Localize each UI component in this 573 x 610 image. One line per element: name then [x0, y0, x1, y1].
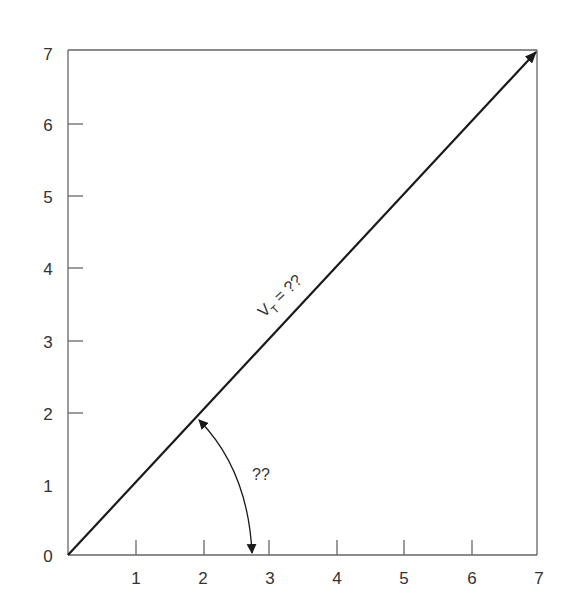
x-label-5: 5: [399, 569, 408, 588]
x-label-7: 7: [534, 569, 543, 588]
vector-vt: [68, 52, 536, 555]
vector-diagram: 1 2 3 4 5 6 7 0 1 2 3 4 5 6 7 VT = ?? ??: [0, 0, 573, 610]
svg-text:VT = ??: VT = ??: [254, 271, 307, 323]
angle-label: ??: [252, 466, 270, 483]
y-label-0: 0: [43, 547, 52, 566]
angle-arc-arrow: [199, 420, 252, 553]
x-ticks: [136, 540, 472, 555]
y-label-4: 4: [43, 260, 52, 279]
vector-label: VT = ??: [254, 271, 307, 323]
y-ticks: [68, 124, 83, 413]
y-label-5: 5: [43, 188, 52, 207]
x-label-3: 3: [265, 569, 274, 588]
y-label-6: 6: [43, 116, 52, 135]
x-label-6: 6: [467, 569, 476, 588]
x-label-1: 1: [131, 569, 140, 588]
x-label-2: 2: [198, 569, 207, 588]
y-label-1: 1: [43, 477, 52, 496]
vector-label-value: = ??: [267, 271, 305, 308]
y-label-2: 2: [43, 405, 52, 424]
y-label-3: 3: [43, 333, 52, 352]
x-label-4: 4: [332, 569, 341, 588]
y-tick-labels: 0 1 2 3 4 5 6 7: [43, 45, 52, 566]
x-tick-labels: 1 2 3 4 5 6 7: [131, 569, 543, 588]
y-label-7: 7: [43, 45, 52, 64]
